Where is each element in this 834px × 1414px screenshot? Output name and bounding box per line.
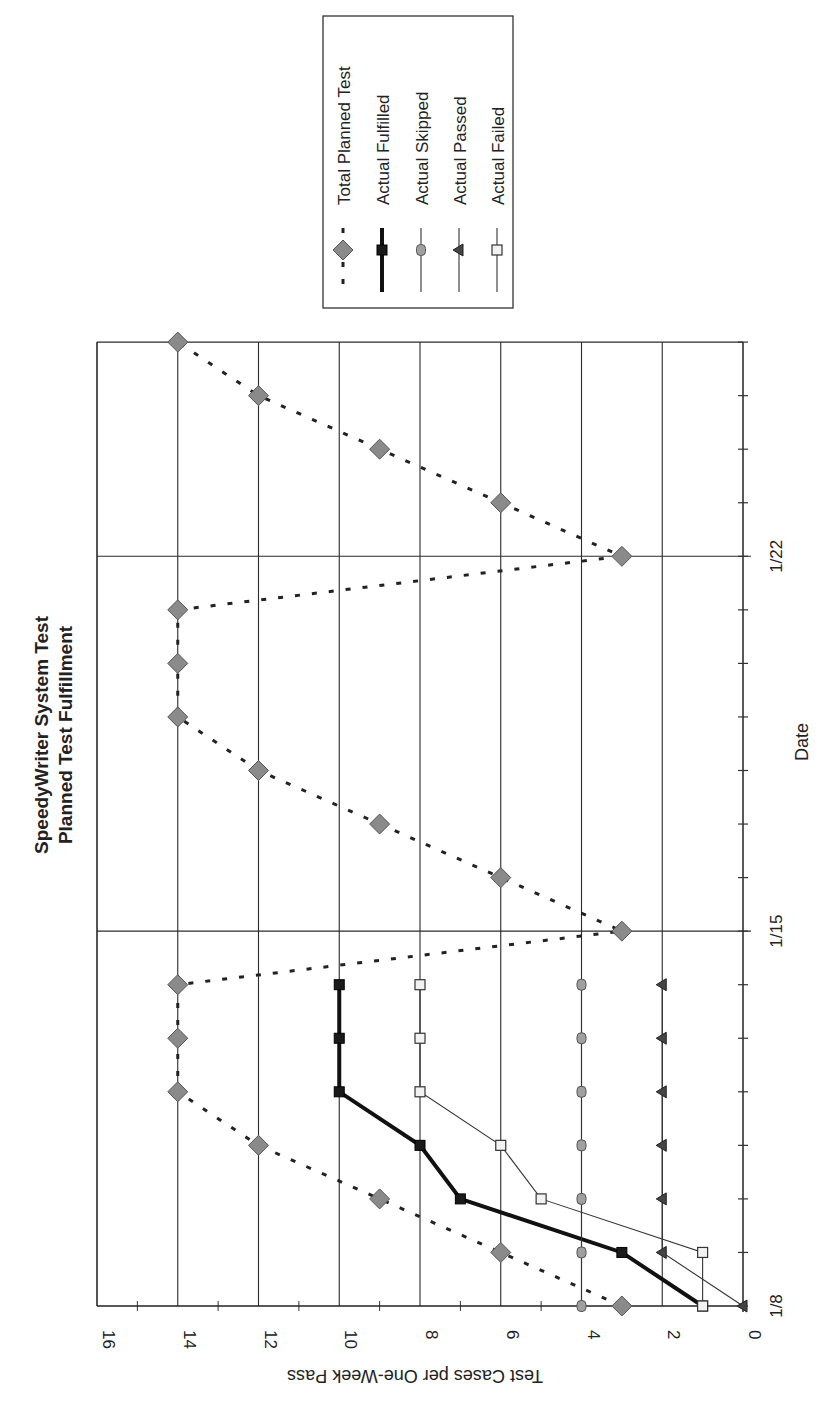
y-tick-label: 14 bbox=[180, 1330, 199, 1349]
open-square-marker-icon bbox=[496, 1140, 506, 1150]
series-actual-fulfilled bbox=[334, 980, 707, 1311]
diamond-marker-icon bbox=[249, 1135, 269, 1155]
square-marker-icon bbox=[617, 1247, 627, 1257]
square-marker-icon bbox=[455, 1194, 465, 1204]
diamond-marker-icon bbox=[168, 600, 188, 620]
circle-marker-icon bbox=[577, 1086, 586, 1097]
diamond-marker-icon bbox=[168, 1082, 188, 1102]
open-square-marker-icon bbox=[536, 1194, 546, 1204]
y-tick-label: 8 bbox=[422, 1330, 441, 1339]
diamond-marker-icon bbox=[168, 332, 188, 352]
circle-marker-icon bbox=[577, 1301, 586, 1312]
diamond-marker-icon bbox=[370, 814, 390, 834]
series-line bbox=[339, 985, 702, 1306]
square-marker-icon bbox=[334, 980, 344, 990]
chart-legend: Total Planned TestActual FulfilledActual… bbox=[323, 16, 513, 308]
open-square-marker-icon bbox=[415, 1087, 425, 1097]
x-tick-label: 1/22 bbox=[767, 540, 786, 573]
chart-gridlines bbox=[97, 342, 751, 1306]
series-actual-passed bbox=[656, 979, 747, 1312]
chart-title-line2: Planned Test Fulfillment bbox=[55, 625, 76, 844]
square-marker-icon bbox=[334, 1087, 344, 1097]
square-marker-icon bbox=[334, 1033, 344, 1043]
triangle-marker-icon bbox=[656, 979, 666, 991]
circle-marker-icon bbox=[577, 979, 586, 990]
diamond-marker-icon bbox=[168, 975, 188, 995]
chart-title-line1: SpeedyWriter System Test bbox=[31, 615, 52, 854]
open-square-marker-icon bbox=[698, 1301, 708, 1311]
x-tick-label: 1/15 bbox=[767, 915, 786, 948]
diamond-marker-icon bbox=[612, 921, 632, 941]
y-axis-label: Test Cases per One-Week Pass bbox=[287, 1366, 543, 1386]
x-tick-label: 1/8 bbox=[767, 1294, 786, 1318]
diamond-marker-icon bbox=[612, 1296, 632, 1316]
legend-label: Actual Passed bbox=[451, 96, 470, 205]
chart-title: SpeedyWriter System Test Planned Test Fu… bbox=[31, 615, 76, 854]
y-tick-label: 10 bbox=[341, 1330, 360, 1349]
chart-series bbox=[168, 332, 747, 1316]
triangle-marker-icon bbox=[656, 1246, 666, 1258]
series-total-planned-test bbox=[168, 332, 632, 1316]
triangle-marker-icon bbox=[656, 1193, 666, 1205]
legend-label: Actual Failed bbox=[489, 107, 508, 205]
legend-label: Total Planned Test bbox=[335, 66, 354, 205]
diamond-marker-icon bbox=[168, 653, 188, 673]
circle-marker-icon bbox=[577, 1193, 586, 1204]
y-tick-label: 16 bbox=[99, 1330, 118, 1349]
triangle-marker-icon bbox=[656, 1032, 666, 1044]
square-marker-icon bbox=[377, 245, 387, 255]
diamond-marker-icon bbox=[491, 1242, 511, 1262]
triangle-marker-icon bbox=[656, 1139, 666, 1151]
open-square-marker-icon bbox=[492, 245, 502, 255]
series-actual-skipped bbox=[577, 979, 586, 1311]
circle-marker-icon bbox=[417, 245, 426, 256]
x-axis-label: Date bbox=[792, 723, 812, 761]
diamond-marker-icon bbox=[249, 761, 269, 781]
square-marker-icon bbox=[415, 1140, 425, 1150]
y-tick-label: 4 bbox=[584, 1330, 603, 1339]
chart-axes: 02468101214161/81/151/22 bbox=[97, 342, 786, 1349]
y-tick-label: 0 bbox=[745, 1330, 764, 1339]
y-tick-label: 6 bbox=[503, 1330, 522, 1339]
legend-label: Actual Fulfilled bbox=[374, 94, 393, 205]
triangle-marker-icon bbox=[656, 1086, 666, 1098]
y-tick-label: 12 bbox=[261, 1330, 280, 1349]
diamond-marker-icon bbox=[612, 546, 632, 566]
diamond-marker-icon bbox=[370, 439, 390, 459]
triangle-marker-icon bbox=[737, 1300, 747, 1312]
circle-marker-icon bbox=[577, 1247, 586, 1258]
diamond-marker-icon bbox=[168, 707, 188, 727]
series-line bbox=[178, 342, 622, 1306]
legend-label: Actual Skipped bbox=[413, 92, 432, 205]
fulfillment-chart: 02468101214161/81/151/22 SpeedyWriter Sy… bbox=[0, 0, 834, 1414]
diamond-marker-icon bbox=[491, 493, 511, 513]
open-square-marker-icon bbox=[415, 1033, 425, 1043]
circle-marker-icon bbox=[577, 1033, 586, 1044]
open-square-marker-icon bbox=[698, 1247, 708, 1257]
diamond-marker-icon bbox=[370, 1189, 390, 1209]
diamond-marker-icon bbox=[168, 1028, 188, 1048]
open-square-marker-icon bbox=[415, 980, 425, 990]
circle-marker-icon bbox=[577, 1140, 586, 1151]
y-tick-label: 2 bbox=[664, 1330, 683, 1339]
diamond-marker-icon bbox=[491, 868, 511, 888]
diamond-marker-icon bbox=[249, 386, 269, 406]
